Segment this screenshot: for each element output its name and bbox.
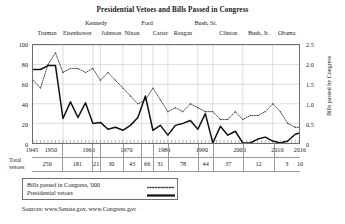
series-marker	[272, 103, 273, 104]
chart-container: Presidential Vetoes and Bills Passed in …	[0, 0, 345, 224]
legend-swatch-solid	[147, 193, 175, 198]
y-tick-left: 60	[10, 81, 28, 88]
series-marker	[167, 111, 168, 112]
series-marker	[70, 68, 71, 69]
president-separator	[123, 144, 124, 171]
series-marker	[77, 68, 78, 69]
series-marker	[92, 68, 93, 69]
y-tick-left: 80	[10, 61, 28, 68]
series-marker	[175, 107, 176, 108]
y-axis-right-label: Bills passed by Congress	[326, 40, 332, 132]
series-marker	[190, 103, 191, 104]
series-marker	[212, 111, 213, 112]
series-marker	[265, 111, 266, 112]
series-marker	[250, 115, 251, 116]
legend-label-vetoes: Presidential vetoes	[27, 190, 73, 196]
y-tick-left: 40	[10, 101, 28, 108]
series-line-2	[33, 66, 299, 143]
series-marker	[235, 111, 236, 112]
x-tick: 2010	[265, 146, 289, 153]
series-marker	[100, 80, 101, 81]
president-separator	[153, 144, 154, 171]
y-tick-left: 100	[10, 41, 28, 48]
series-marker	[280, 111, 281, 112]
series-marker	[122, 87, 123, 88]
total-veto-value: 37	[217, 160, 239, 167]
legend-label-bills: Bills passed in Congress, '000	[27, 182, 100, 188]
series-marker	[107, 72, 108, 73]
legend: Bills passed in Congress, '000 President…	[22, 178, 178, 200]
series-line-1	[33, 53, 299, 127]
y-tick-right: 1.5	[306, 81, 326, 88]
x-tick: 1980	[152, 146, 176, 153]
totals-row-divider	[32, 157, 300, 158]
president-separator	[62, 144, 63, 171]
president-label-band: TrumanEisenhowerKennedyJohnsonNixonFordC…	[0, 20, 345, 44]
president-label: Reagan	[157, 30, 209, 36]
series-marker	[160, 99, 161, 100]
chart-title: Presidential Vetoes and Bills Passed in …	[0, 6, 345, 14]
x-tick: 1960	[77, 146, 101, 153]
series-marker	[40, 87, 41, 88]
total-veto-value: 250	[36, 160, 58, 167]
series-marker	[62, 72, 63, 73]
totals-row-bottom	[32, 171, 300, 172]
total-veto-value: 78	[172, 160, 194, 167]
series-marker	[227, 119, 228, 120]
x-tick: 2016	[288, 146, 312, 153]
y-tick-right: 2.0	[306, 61, 326, 68]
president-separator	[92, 144, 93, 171]
series-marker	[197, 107, 198, 108]
president-label: Obama	[261, 30, 313, 36]
series-marker	[85, 72, 86, 73]
x-tick: 1950	[39, 146, 63, 153]
series-marker	[295, 127, 296, 128]
total-veto-value: 12	[247, 160, 269, 167]
y-tick-right: 0.5	[306, 121, 326, 128]
plot-area	[32, 44, 300, 144]
y-tick-left: 20	[10, 121, 28, 128]
x-tick: 1990	[190, 146, 214, 153]
x-tick: 2000	[228, 146, 252, 153]
series-marker	[130, 95, 131, 96]
series-marker	[287, 123, 288, 124]
president-separator	[243, 144, 244, 171]
totals-row-label: Total vetoes	[9, 157, 33, 170]
series-marker	[242, 119, 243, 120]
president-separator	[198, 144, 199, 171]
president-separator	[100, 144, 101, 171]
series-marker	[182, 111, 183, 112]
series-marker	[205, 111, 206, 112]
president-label: Bush, Sr.	[180, 20, 232, 26]
president-label: Kennedy	[70, 20, 122, 26]
legend-item-vetoes: Presidential vetoes	[27, 190, 175, 200]
source-note: Sources: www.Senate.gov, www.Congress.go…	[22, 206, 136, 212]
plot-svg	[33, 45, 299, 143]
series-marker	[137, 103, 138, 104]
series-marker	[55, 52, 56, 53]
president-label: Ford	[121, 20, 173, 26]
president-separator	[213, 144, 214, 171]
y-tick-right: 1.0	[306, 101, 326, 108]
total-veto-value: 30	[100, 160, 122, 167]
y-tick-right: 2.5	[306, 41, 326, 48]
president-separator	[274, 144, 275, 171]
series-marker	[298, 127, 299, 128]
president-separator	[141, 144, 142, 171]
series-marker	[257, 115, 258, 116]
president-separator	[168, 144, 169, 171]
series-marker	[220, 119, 221, 120]
series-marker	[115, 80, 116, 81]
series-marker	[152, 87, 153, 88]
x-tick: 1970	[114, 146, 138, 153]
total-veto-value-final: 10	[289, 160, 311, 167]
